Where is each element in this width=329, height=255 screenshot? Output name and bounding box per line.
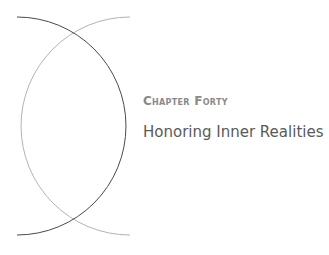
chapter-label: Chapter Forty (143, 94, 228, 108)
light-arc (21, 17, 130, 235)
dark-arc (17, 17, 126, 235)
chapter-title: Honoring Inner Realities (143, 123, 323, 141)
